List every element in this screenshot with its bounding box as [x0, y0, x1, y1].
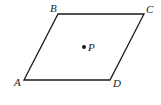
vertex-label-d: D [112, 77, 121, 89]
vertex-label-c: C [146, 3, 154, 15]
point-p-dot [82, 45, 86, 49]
parallelogram-diagram: A B C D P [0, 0, 161, 105]
point-label-p: P [87, 41, 95, 53]
vertex-label-b: B [50, 2, 57, 14]
vertex-label-a: A [13, 76, 21, 88]
